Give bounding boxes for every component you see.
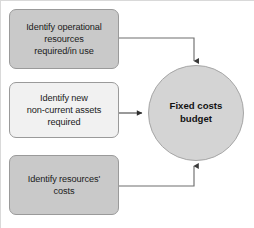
node-fixed-costs-budget[interactable]: Fixed costs budget	[148, 65, 244, 161]
node-label-fixed-costs-budget: Fixed costs budget	[170, 100, 223, 125]
node-identify-operational-resources[interactable]: Identify operational resources required/…	[9, 9, 119, 69]
node-line: Identify resources'	[28, 174, 100, 184]
node-line: Identify operational	[26, 22, 102, 32]
connector-costs-to-budget	[119, 166, 194, 186]
node-line: resources	[44, 34, 83, 44]
node-label-new-noncurrent-assets: Identify new non-current assets required	[16, 92, 112, 129]
node-line: Identify new	[40, 93, 88, 103]
connector-operational-to-budget	[119, 38, 194, 61]
node-line: non-current assets	[27, 105, 101, 115]
node-identify-new-noncurrent-assets[interactable]: Identify new non-current assets required	[9, 82, 119, 138]
node-line: Fixed costs	[170, 100, 223, 111]
node-line: costs	[54, 186, 75, 196]
flowchart-diagram: Identify operational resources required/…	[0, 0, 254, 228]
node-line: required	[48, 117, 81, 127]
node-line: required/in use	[34, 46, 93, 56]
node-identify-resources-costs[interactable]: Identify resources' costs	[9, 155, 119, 215]
node-label-resources-costs: Identify resources' costs	[16, 173, 112, 197]
node-label-operational-resources: Identify operational resources required/…	[16, 21, 112, 58]
node-line: budget	[180, 113, 212, 124]
